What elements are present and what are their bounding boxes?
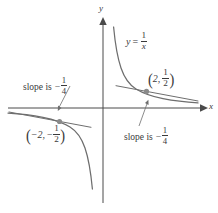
tangent-point-right-marker [144,89,149,94]
equation-numerator: 1 [141,31,148,42]
point-right-numerator: 1 [162,68,169,79]
y-axis-label: y [99,4,103,13]
point-right-paren-open: ( [148,71,153,88]
slope-label-left-fraction: 14 [61,76,67,95]
slope-label-right-fraction: 14 [162,126,168,145]
point-right-x: 2, [153,73,161,84]
slope-left-denominator: 4 [61,86,67,95]
point-left-fraction: 12 [53,124,60,144]
point-left-denominator: 2 [53,135,60,145]
point-left-paren-close: ) [60,127,65,144]
point-left-numerator: 1 [53,124,60,135]
slope-label-right: slope is−14 [124,126,169,145]
point-right-paren-close: ) [169,71,174,88]
x-axis-arrowhead [200,104,208,111]
equation-fraction: 1x [141,31,148,51]
equation-label: y=1x [126,31,148,51]
equation-denominator: x [141,42,148,52]
figure-container: y x y=1x slope is−14 slope is−14 (2,12) … [0,0,218,213]
slope-label-left: slope is−14 [23,76,68,95]
x-axis-label: x [209,102,213,111]
slope-right-denominator: 4 [162,136,168,145]
point-label-right: (2,12) [148,68,174,88]
point-left-x: −2, [31,129,45,140]
slope-left-numerator: 1 [61,76,67,86]
slope-label-right-sign: − [156,132,161,142]
point-left-sign: − [47,129,53,140]
leader-line-right [139,100,149,126]
y-axis-arrowhead [99,17,106,25]
point-right-denominator: 2 [162,79,169,89]
equation-lhs: y [126,36,130,47]
y-axis [99,17,106,203]
graph-canvas [0,0,218,213]
slope-label-left-sign: − [55,82,60,92]
x-axis [8,104,208,111]
equation-equals: = [132,36,138,47]
point-right-fraction: 12 [162,68,169,88]
slope-label-left-text: slope is [23,82,52,92]
slope-label-right-text: slope is [124,132,153,142]
point-label-left: (−2,−12) [26,124,65,144]
point-left-paren-open: ( [26,127,31,144]
slope-right-numerator: 1 [162,126,168,136]
